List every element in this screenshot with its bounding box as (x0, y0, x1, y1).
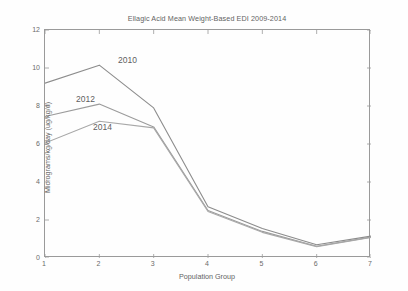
x-tick-label: 3 (143, 260, 163, 267)
chart-figure: Ellagic Acid Mean Weight-Based EDI 2009-… (0, 0, 408, 291)
x-tick-label: 1 (34, 260, 54, 267)
x-tick-label: 7 (360, 260, 380, 267)
series-annotation-2010: 2010 (118, 55, 137, 65)
y-tick-label: 4 (8, 178, 40, 185)
x-tick-label: 5 (251, 260, 271, 267)
series-annotation-2014: 2014 (93, 122, 112, 132)
y-tick-label: 8 (8, 102, 40, 109)
series-annotation-2012: 2012 (76, 94, 95, 104)
plot-area (44, 29, 370, 257)
y-tick-label: 10 (8, 64, 40, 71)
y-tick-label: 2 (8, 216, 40, 223)
plot-svg (45, 30, 371, 258)
y-tick-label: 12 (8, 26, 40, 33)
x-tick-label: 2 (88, 260, 108, 267)
series-line-2014 (45, 121, 371, 246)
tick-marks (45, 30, 371, 258)
y-axis-label: Micrograms/kg/day (ug/kg/d) (43, 58, 52, 238)
x-axis-label: Population Group (44, 272, 370, 281)
y-tick-label: 6 (8, 140, 40, 147)
series-line-2010 (45, 65, 371, 245)
x-tick-label: 4 (197, 260, 217, 267)
x-tick-label: 6 (306, 260, 326, 267)
chart-title: Ellagic Acid Mean Weight-Based EDI 2009-… (44, 14, 370, 23)
